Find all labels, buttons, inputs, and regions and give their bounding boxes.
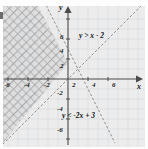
x-tick-label-neg2: -2 <box>44 81 50 89</box>
y-tick-label-6: 6 <box>60 33 64 41</box>
graph-canvas <box>0 0 148 149</box>
inequality-label-2: y < -2x + 3 <box>62 111 95 120</box>
x-tick-label-4: 4 <box>92 81 96 89</box>
inequality-label-1: y > x - 2 <box>79 31 104 40</box>
x-tick-label-6: 6 <box>112 81 116 89</box>
y-tick-label-neg2: -2 <box>57 89 63 97</box>
inequality-graph-figure: -6 -4 -2 2 4 6 6 4 2 -2 -4 -6 x y y > x … <box>0 0 148 149</box>
x-tick-label-2: 2 <box>72 81 76 89</box>
y-axis-label: y <box>59 3 63 12</box>
y-tick-label-2: 2 <box>60 62 64 70</box>
y-tick-label-neg6: -6 <box>57 126 63 134</box>
x-axis-label: x <box>137 82 141 91</box>
x-tick-label-neg6: -6 <box>4 81 10 89</box>
x-tick-label-neg4: -4 <box>24 81 30 89</box>
y-tick-label-4: 4 <box>60 47 64 55</box>
